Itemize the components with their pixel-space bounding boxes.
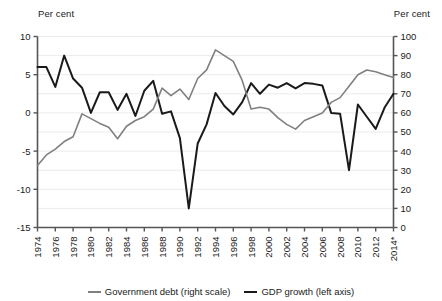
series-line-government-debt (38, 50, 394, 166)
left-tick-label: 5 (25, 69, 30, 80)
right-tick-label: 10 (401, 203, 412, 214)
chart-figure: Per cent Per cent 1050-5-10-15 100908070… (0, 0, 442, 301)
legend-item-government-debt: Government debt (right scale) (88, 286, 231, 297)
legend-swatch-icon-gdp-growth (244, 291, 257, 293)
left-tick-label: 0 (25, 107, 30, 118)
x-tick-label: 2014* (388, 236, 399, 261)
x-tick-label: 1996 (228, 237, 239, 258)
legend-swatch-icon-government-debt (88, 291, 101, 293)
right-tick-label: 40 (401, 146, 412, 157)
x-axis-ticks: 1974197619781980198219841986198819901992… (32, 228, 399, 262)
legend-label-gdp-growth: GDP growth (left axis) (261, 286, 354, 297)
right-tick-label: 20 (401, 184, 412, 195)
x-tick-label: 1998 (246, 237, 257, 258)
gridlines (38, 37, 394, 228)
x-tick-label: 2004 (299, 237, 310, 258)
x-tick-label: 1986 (139, 237, 150, 258)
left-tick-label: 10 (20, 31, 31, 42)
x-tick-label: 1984 (121, 237, 132, 258)
x-tick-label: 1978 (68, 237, 79, 258)
x-tick-label: 1976 (50, 237, 61, 258)
right-tick-label: 0 (401, 222, 406, 233)
x-tick-label: 2006 (317, 237, 328, 258)
left-tick-label: -5 (22, 146, 30, 157)
x-tick-label: 2010 (352, 237, 363, 258)
right-axis-ticks: 1009080706050403020100 (394, 31, 417, 233)
left-tick-label: -10 (17, 184, 31, 195)
x-tick-label: 1994 (210, 237, 221, 258)
line-chart-plot: 1050-5-10-15 1009080706050403020100 1974… (0, 0, 442, 301)
legend-item-gdp-growth: GDP growth (left axis) (244, 286, 354, 297)
x-tick-label: 2002 (281, 237, 292, 258)
right-tick-label: 50 (401, 126, 412, 137)
x-tick-label: 1988 (157, 237, 168, 258)
right-tick-label: 70 (401, 88, 412, 99)
right-tick-label: 90 (401, 50, 412, 61)
x-tick-label: 2008 (335, 237, 346, 258)
x-tick-label: 1990 (174, 237, 185, 258)
left-axis-ticks: 1050-5-10-15 (17, 31, 38, 233)
right-tick-label: 100 (401, 31, 417, 42)
right-tick-label: 60 (401, 107, 412, 118)
data-series (38, 50, 394, 209)
x-tick-label: 1980 (85, 237, 96, 258)
left-tick-label: -15 (17, 222, 31, 233)
x-tick-label: 1992 (192, 237, 203, 258)
x-tick-label: 2012 (370, 237, 381, 258)
x-tick-label: 1982 (103, 237, 114, 258)
x-tick-label: 1974 (32, 237, 43, 258)
chart-legend: Government debt (right scale) GDP growth… (0, 286, 442, 297)
right-tick-label: 30 (401, 165, 412, 176)
x-tick-label: 2000 (263, 237, 274, 258)
legend-label-government-debt: Government debt (right scale) (105, 286, 231, 297)
right-tick-label: 80 (401, 69, 412, 80)
